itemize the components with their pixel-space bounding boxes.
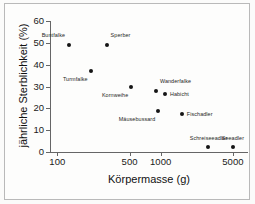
data-point-label: Seeadler <box>222 136 244 141</box>
data-point <box>154 89 158 93</box>
y-axis-tick <box>46 108 50 109</box>
data-point <box>163 92 167 96</box>
y-axis-tick <box>46 130 50 131</box>
y-axis-tick <box>46 152 50 153</box>
y-axis-tick <box>46 87 50 88</box>
data-point-label: Turmfalke <box>63 77 88 82</box>
data-point <box>129 85 133 89</box>
data-point <box>67 43 71 47</box>
x-axis-tick-label: 100 <box>49 157 65 167</box>
data-point-label: Kornweihe <box>102 93 128 98</box>
data-point <box>89 69 93 73</box>
x-axis-tick-label: 1000 <box>150 157 171 167</box>
data-point-label: Habicht <box>170 92 189 97</box>
data-point-label: Fischadler <box>187 112 213 117</box>
data-point <box>156 109 160 113</box>
x-axis-line <box>50 152 248 153</box>
data-point <box>231 145 235 149</box>
x-axis-tick-label: 5000 <box>222 157 243 167</box>
chart-frame: 0102030405060 10050010005000 BuntfalkeSp… <box>4 3 250 200</box>
x-axis-title: Körpermasse (g) <box>50 174 248 185</box>
y-axis-tick <box>46 43 50 44</box>
y-axis-line <box>50 21 51 152</box>
y-axis-title: jährliche Sterblichkeit (%) <box>18 16 29 156</box>
y-axis-tick <box>46 65 50 66</box>
data-point-label: Sperber <box>111 33 131 38</box>
data-point-label: Mäusebussard <box>119 117 156 122</box>
data-point <box>180 112 184 116</box>
data-point-label: Buntfalke <box>42 33 65 38</box>
data-point <box>105 43 109 47</box>
data-point-label: Wanderfalke <box>160 79 191 84</box>
data-point <box>206 145 210 149</box>
chart-screenshot: 0102030405060 10050010005000 BuntfalkeSp… <box>0 0 255 204</box>
y-axis-tick <box>46 21 50 22</box>
x-axis-tick-label: 500 <box>122 157 138 167</box>
